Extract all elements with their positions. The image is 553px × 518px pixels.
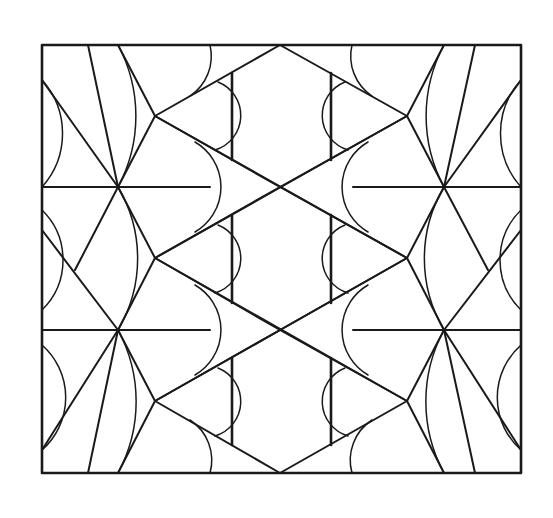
diagonal-zigzags — [155, 45, 407, 473]
frame — [42, 45, 521, 473]
side-star-lines — [42, 45, 521, 473]
geometric-pattern — [0, 0, 553, 518]
arcs — [42, 45, 521, 473]
vertical-bars — [232, 73, 331, 445]
row-lines — [42, 187, 521, 330]
